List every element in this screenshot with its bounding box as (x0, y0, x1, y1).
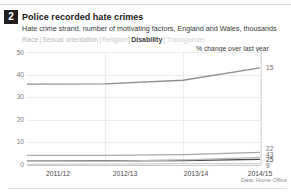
top-divider (0, 4, 291, 5)
chart-subtitle: Hate crime strand, number of motivating … (22, 24, 277, 33)
chart-legend: Race|Sexual orientation|Religion|Disabil… (22, 36, 206, 43)
chart-card: 2 Police recorded hate crimes Hate crime… (0, 0, 291, 195)
right-axis-line (261, 52, 262, 165)
x-tick-2012-13: 2012/13 (105, 170, 145, 177)
bottom-divider (8, 188, 287, 189)
line-sexual-orientation (27, 152, 260, 155)
x-tick-2011-12: 2011/12 (38, 170, 78, 177)
legend-item-disability[interactable]: Disability (131, 36, 162, 43)
x-tick-2014-15: 2014/15 (240, 170, 280, 177)
gridline-0-baseline (27, 165, 261, 166)
y-tick-0: 0 (8, 161, 24, 168)
series-lines (27, 52, 261, 165)
legend-item-sexual-orientation[interactable]: Sexual orientation (42, 36, 98, 43)
x-tick-2013-14: 2013/14 (176, 170, 216, 177)
line-race (27, 68, 260, 84)
y-tick-50: 50 (8, 49, 24, 56)
pct-change-race: 15 (266, 64, 273, 71)
source-credit: Data: Home Office (241, 177, 287, 183)
legend-item-race[interactable]: Race (22, 36, 38, 43)
y-tick-20: 20 (8, 116, 24, 123)
legend-item-religion[interactable]: Religion (102, 36, 127, 43)
y-tick-40: 40 (8, 71, 24, 78)
chart-title: Police recorded hate crimes (22, 12, 143, 22)
legend-item-transgender[interactable]: Transgender (166, 36, 205, 43)
y-tick-30: 30 (8, 93, 24, 100)
figure-number-badge: 2 (4, 10, 18, 24)
percent-change-annotation: % change over last year (196, 45, 269, 52)
y-tick-10: 10 (8, 138, 24, 145)
line-transgender (27, 164, 260, 165)
plot-area (27, 52, 261, 165)
pct-change-transgender: 9 (266, 162, 270, 169)
